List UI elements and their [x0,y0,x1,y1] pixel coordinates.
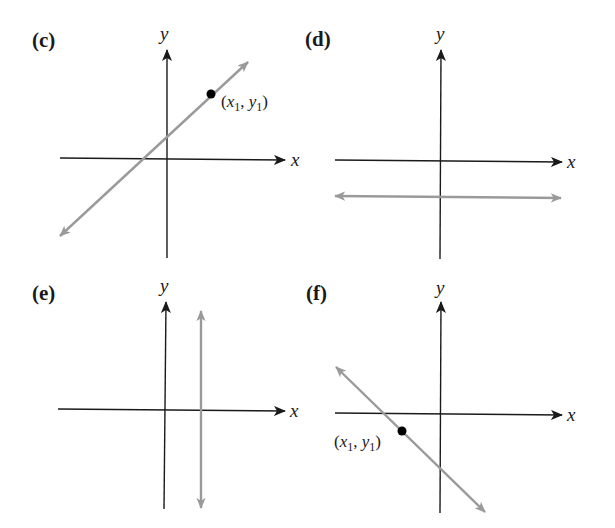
slope-figure: (c) y x (x1, y1) (d) y x (e) y x (f) y x… [0,0,615,528]
y-axis [440,302,441,513]
panel-label: (f) [306,281,327,305]
panel-c: (c) y x (x1, y1) [32,23,300,258]
y-axis-label: y [158,23,169,44]
horizontal-line [335,196,561,198]
positive-slope-line [60,62,248,236]
panel-e: (e) y x [32,275,299,509]
point-label: (x1, y1) [221,92,268,114]
x-axis [335,413,562,415]
y-axis-label: y [434,23,445,44]
x-axis [335,160,562,162]
panel-d: (d) y x [305,23,576,259]
point-label: (x1, y1) [334,432,381,454]
x-axis-label: x [290,149,300,170]
x-axis [60,158,285,160]
panel-f: (f) y x (x1, y1) [306,277,576,513]
point-x1-y1 [398,427,407,436]
panel-label: (c) [32,28,55,52]
panel-label: (d) [305,27,331,51]
y-axis [440,50,441,259]
x-axis [58,409,285,411]
x-axis-label: x [566,404,576,425]
panel-label: (e) [32,281,55,305]
x-axis-label: x [289,400,299,421]
point-x1-y1 [207,90,216,99]
y-axis-label: y [434,277,445,298]
y-axis [164,302,166,509]
y-axis-label: y [158,275,169,296]
x-axis-label: x [566,151,576,172]
